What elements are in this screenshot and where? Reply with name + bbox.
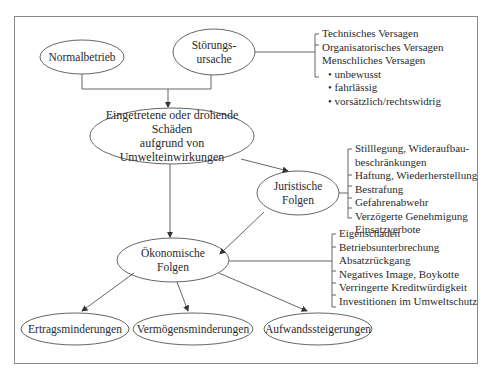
list-item: Technisches Versagen: [322, 27, 443, 41]
list-juristische-folgen: Stilllegung, Wideraufbau- beschränkungen…: [355, 142, 477, 237]
list-item: Haftung, Wiederherstellung: [355, 169, 477, 183]
list-item: beschränkungen: [355, 156, 477, 170]
list-item: Gefahrenabwehr: [355, 196, 477, 210]
list-item: Menschliches Versagen: [322, 54, 443, 68]
node-label: Aufwandssteigerungen: [265, 322, 371, 336]
node-ertragsminderungen: Ertragsminderungen: [21, 320, 129, 338]
node-label-line2: Folgen: [282, 193, 314, 207]
list-item: Negatives Image, Boykotte: [339, 268, 477, 282]
node-stoerungsursache: Störungs- ursache: [173, 36, 255, 68]
node-label-line2: Folgen: [157, 260, 189, 274]
list-item: Betriebsunterbrechung: [339, 241, 477, 255]
list-item: Eigenschaden: [339, 227, 477, 241]
list-item: Verzögerte Genehmigung: [355, 210, 477, 224]
node-vermoegensminderungen: Vermögensminderungen: [133, 320, 253, 338]
node-oekonomische-folgen: Ökonomische Folgen: [117, 245, 229, 275]
list-item: Bestrafung: [355, 183, 477, 197]
list-stoerungsursachen: Technisches Versagen Organisatorisches V…: [322, 27, 443, 108]
node-schaeden: Eingetretene oder drohende Schäden aufgr…: [90, 121, 254, 151]
list-item: Absatzrückgang: [339, 254, 477, 268]
list-item: Investitionen im Umweltschutz: [339, 295, 477, 309]
list-subitem: • fahrlässig: [322, 81, 443, 95]
node-label: Normalbetrieb: [48, 50, 115, 64]
node-label: Vermögensminderungen: [137, 322, 249, 336]
node-label-line1: Juristische: [274, 179, 323, 193]
list-item: Verringerte Kreditwürdigkeit: [339, 281, 477, 295]
node-juristische-folgen: Juristische Folgen: [257, 178, 339, 208]
node-label-line1: Störungs-: [192, 38, 237, 52]
node-label: Ertragsminderungen: [28, 322, 122, 336]
list-item: Organisatorisches Versagen: [322, 41, 443, 55]
node-label-line2: aufgrund von Umwelteinwirkungen: [90, 136, 254, 164]
node-label-line1: Eingetretene oder drohende Schäden: [90, 108, 254, 136]
list-oekonomische-folgen: Eigenschaden Betriebsunterbrechung Absat…: [339, 227, 477, 308]
node-aufwandssteigerungen: Aufwandssteigerungen: [264, 320, 372, 338]
list-subitem: • unbewusst: [322, 68, 443, 82]
list-subitem: • vorsätzlich/rechtswidrig: [322, 95, 443, 109]
node-label-line2: ursache: [196, 52, 231, 66]
list-item: Stilllegung, Wideraufbau-: [355, 142, 477, 156]
node-normalbetrieb: Normalbetrieb: [40, 48, 124, 66]
node-label-line1: Ökonomische: [141, 246, 205, 260]
